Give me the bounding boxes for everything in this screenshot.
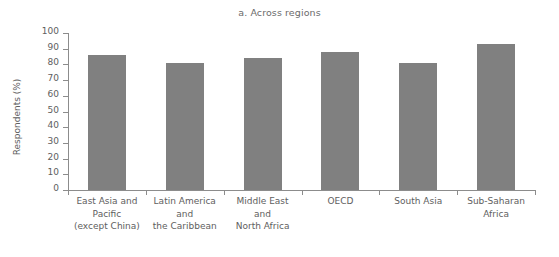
bar bbox=[399, 63, 437, 190]
y-axis-tick-label: 90 bbox=[35, 42, 59, 52]
x-axis-label: Latin Americaandthe Caribbean bbox=[146, 195, 224, 233]
chart-title: a. Across regions bbox=[0, 7, 559, 18]
x-axis-label-line: Pacific bbox=[68, 208, 146, 221]
x-axis-label: South Asia bbox=[379, 195, 457, 208]
x-axis-label-line: Africa bbox=[457, 208, 535, 221]
x-axis-label-line: Middle East bbox=[224, 195, 302, 208]
x-axis-tick bbox=[535, 190, 536, 195]
x-axis-label-line: and bbox=[224, 208, 302, 221]
bar-slot bbox=[457, 33, 535, 190]
bar-slot bbox=[146, 33, 224, 190]
x-axis-label-line: East Asia and bbox=[68, 195, 146, 208]
x-axis-label-line: the Caribbean bbox=[146, 220, 224, 233]
bar-slot bbox=[379, 33, 457, 190]
x-axis-label: Sub-SaharanAfrica bbox=[457, 195, 535, 220]
y-axis-tick-label: 0 bbox=[35, 183, 59, 193]
y-axis-tick-label: 30 bbox=[35, 136, 59, 146]
bar bbox=[321, 52, 359, 190]
chart-figure: a. Across regions Respondents (%) 100908… bbox=[0, 0, 559, 257]
y-axis-tick-label: 20 bbox=[35, 152, 59, 162]
y-axis-tick-label: 70 bbox=[35, 73, 59, 83]
y-axis-tick-label: 50 bbox=[35, 105, 59, 115]
x-axis-labels: East Asia andPacific(except China)Latin … bbox=[68, 195, 535, 251]
y-axis-tick-label: 100 bbox=[35, 26, 59, 36]
bar bbox=[88, 55, 126, 190]
bar bbox=[244, 58, 282, 190]
x-axis-label-line: and bbox=[146, 208, 224, 221]
plot-area: 1009080706050403020100 bbox=[68, 33, 535, 190]
x-axis-label-line: (except China) bbox=[68, 220, 146, 233]
x-axis-label: East Asia andPacific(except China) bbox=[68, 195, 146, 233]
bar bbox=[477, 44, 515, 190]
x-axis-label-line: OECD bbox=[302, 195, 380, 208]
x-axis-label: OECD bbox=[302, 195, 380, 208]
y-axis-title: Respondents (%) bbox=[12, 67, 22, 167]
x-axis-label-line: South Asia bbox=[379, 195, 457, 208]
y-axis-tick-label: 10 bbox=[35, 167, 59, 177]
bar bbox=[166, 63, 204, 190]
x-axis-label-line: North Africa bbox=[224, 220, 302, 233]
x-axis-label-line: Latin America bbox=[146, 195, 224, 208]
y-axis-tick-label: 60 bbox=[35, 89, 59, 99]
x-axis-label: Middle EastandNorth Africa bbox=[224, 195, 302, 233]
bar-slot bbox=[302, 33, 380, 190]
x-axis-label-line: Sub-Saharan bbox=[457, 195, 535, 208]
y-axis-tick-label: 80 bbox=[35, 57, 59, 67]
bar-slot bbox=[224, 33, 302, 190]
bar-slot bbox=[68, 33, 146, 190]
y-axis-tick-label: 40 bbox=[35, 120, 59, 130]
